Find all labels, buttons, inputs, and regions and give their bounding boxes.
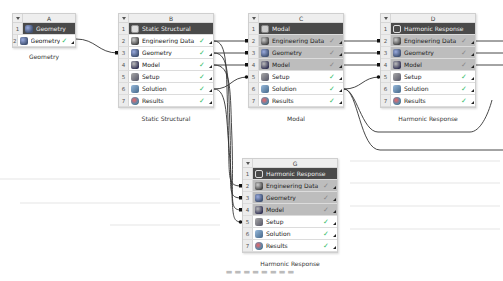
cell-engineering-data[interactable]: 2Engineering Data✓ (249, 35, 343, 47)
geometry-icon (20, 37, 28, 45)
system-letter: G (253, 159, 337, 167)
check-icon: ✓ (460, 37, 468, 45)
engineering-data-icon (131, 37, 139, 45)
cell-results[interactable]: 7Results✓ (249, 95, 343, 107)
cell-model[interactable]: 4Model✓ (243, 204, 337, 216)
system-title-row[interactable]: 1 Harmonic Response (381, 23, 475, 35)
cell-results[interactable]: 7Results✓ (243, 240, 337, 252)
check-icon: ✓ (322, 194, 330, 202)
corner-triangle-icon (330, 180, 337, 191)
system-b-label: Static Structural (118, 115, 214, 122)
system-g-harmonic-response[interactable]: G 1 Harmonic Response 2Engineering Data✓… (242, 158, 338, 253)
check-icon: ✓ (460, 61, 468, 69)
system-title-row[interactable]: 1 Harmonic Response (243, 168, 337, 180)
cell-solution[interactable]: 6Solution✓ (381, 83, 475, 95)
corner-triangle-icon (330, 228, 337, 239)
cell-setup[interactable]: 5Setup✓ (381, 71, 475, 83)
corner-triangle-icon (468, 59, 475, 70)
corner-triangle-icon (468, 83, 475, 94)
model-icon (255, 206, 263, 214)
corner-triangle-icon (336, 95, 343, 106)
results-icon (131, 97, 139, 105)
check-icon: ✓ (460, 73, 468, 81)
geometry-icon (255, 194, 263, 202)
chevron-down-icon (252, 17, 256, 20)
geometry-icon (393, 49, 401, 57)
cell-results[interactable]: 7Results✓ (119, 95, 213, 107)
cell-setup[interactable]: 5Setup✓ (249, 71, 343, 83)
figure-caption-illegible: ▬ ▬ ▬ ▬ ▬ ▬ ▬ ▬ (160, 268, 360, 276)
system-menu-dropdown[interactable] (381, 14, 391, 22)
system-letter: A (23, 14, 75, 22)
check-icon: ✓ (460, 97, 468, 105)
solution-icon (261, 85, 269, 93)
check-icon: ✓ (322, 206, 330, 214)
system-b-static-structural[interactable]: B 1 Static Structural 2Engineering Data✓… (118, 13, 214, 108)
system-menu-dropdown[interactable] (243, 159, 253, 167)
model-icon (393, 61, 401, 69)
geometry-system-icon (25, 25, 33, 33)
modal-icon (261, 25, 269, 33)
corner-triangle-icon (206, 83, 213, 94)
static-structural-icon (131, 25, 139, 33)
system-menu-dropdown[interactable] (13, 14, 23, 22)
cell-model[interactable]: 4Model✓ (249, 59, 343, 71)
system-d-label: Harmonic Response (380, 115, 476, 122)
check-icon: ✓ (198, 73, 206, 81)
model-icon (261, 61, 269, 69)
corner-triangle-icon (336, 59, 343, 70)
check-icon: ✓ (198, 85, 206, 93)
corner-triangle-icon (330, 240, 337, 251)
cell-engineering-data[interactable]: 2Engineering Data✓ (119, 35, 213, 47)
engineering-data-icon (255, 182, 263, 190)
corner-triangle-icon (206, 59, 213, 70)
system-title-row[interactable]: 1 Modal (249, 23, 343, 35)
corner-triangle-icon (468, 71, 475, 82)
check-icon: ✓ (328, 97, 336, 105)
cell-model[interactable]: 4Model✓ (119, 59, 213, 71)
check-icon: ✓ (328, 49, 336, 57)
cell-geometry[interactable]: 3Geometry✓ (381, 47, 475, 59)
system-title-row[interactable]: 1 Static Structural (119, 23, 213, 35)
corner-triangle-icon (468, 35, 475, 46)
system-c-modal[interactable]: C 1 Modal 2Engineering Data✓ 3Geometry✓ … (248, 13, 344, 108)
results-icon (261, 97, 269, 105)
cell-solution[interactable]: 6Solution✓ (119, 83, 213, 95)
corner-triangle-icon (468, 95, 475, 106)
cell-model[interactable]: 4Model✓ (381, 59, 475, 71)
check-icon: ✓ (328, 61, 336, 69)
check-icon: ✓ (460, 49, 468, 57)
system-menu-dropdown[interactable] (249, 14, 259, 22)
corner-triangle-icon (336, 83, 343, 94)
check-icon: ✓ (198, 61, 206, 69)
system-a-geometry[interactable]: A 1 Geometry 2 Geometry✓ (12, 13, 76, 48)
corner-triangle-icon (336, 35, 343, 46)
cell-geometry[interactable]: 3Geometry✓ (243, 192, 337, 204)
corner-triangle-icon (468, 47, 475, 58)
cell-results[interactable]: 7Results✓ (381, 95, 475, 107)
cell-engineering-data[interactable]: 2Engineering Data✓ (243, 180, 337, 192)
setup-icon (393, 73, 401, 81)
system-d-harmonic-response[interactable]: D 1 Harmonic Response 2Engineering Data✓… (380, 13, 476, 108)
check-icon: ✓ (322, 230, 330, 238)
system-title-row[interactable]: 1 Geometry (13, 23, 75, 35)
corner-triangle-icon (330, 216, 337, 227)
cell-geometry[interactable]: 3Geometry✓ (249, 47, 343, 59)
cell-geometry[interactable]: 3Geometry✓ (119, 47, 213, 59)
setup-icon (131, 73, 139, 81)
chevron-down-icon (122, 17, 126, 20)
system-menu-dropdown[interactable] (119, 14, 129, 22)
cell-solution[interactable]: 6Solution✓ (249, 83, 343, 95)
check-icon: ✓ (322, 242, 330, 250)
check-icon: ✓ (60, 37, 68, 45)
cell-solution[interactable]: 6Solution✓ (243, 228, 337, 240)
corner-triangle-icon (206, 47, 213, 58)
model-icon (131, 61, 139, 69)
cell-setup[interactable]: 5Setup✓ (119, 71, 213, 83)
chevron-down-icon (246, 162, 250, 165)
cell-engineering-data[interactable]: 2Engineering Data✓ (381, 35, 475, 47)
cell-geometry[interactable]: 2 Geometry✓ (13, 35, 75, 47)
system-a-label: Geometry (12, 53, 76, 60)
cell-setup[interactable]: 5Setup✓ (243, 216, 337, 228)
results-icon (393, 97, 401, 105)
